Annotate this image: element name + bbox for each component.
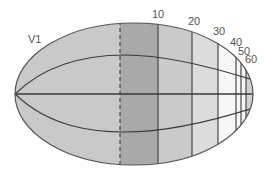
eccentricity-band-2	[158, 0, 192, 176]
eccentricity-label-10: 10	[152, 8, 164, 20]
eccentricity-bands	[0, 0, 265, 176]
eccentricity-band-5	[246, 0, 265, 176]
eccentricity-label-20: 20	[188, 15, 200, 27]
eccentricity-label-60: 60	[245, 53, 257, 65]
v1-retinotopic-map: V1 102030405060	[0, 0, 265, 176]
v1-label: V1	[28, 33, 41, 45]
eccentricity-label-30: 30	[213, 25, 225, 37]
eccentricity-band-1	[120, 0, 158, 176]
